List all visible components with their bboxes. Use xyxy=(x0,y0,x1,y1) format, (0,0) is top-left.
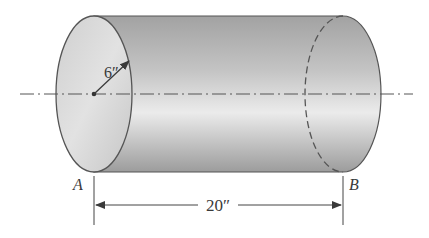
cylinder-diagram: 6″ A B 20″ xyxy=(0,0,429,238)
label-b: B xyxy=(349,176,359,193)
length-label: 20″ xyxy=(206,196,230,215)
radius-label: 6″ xyxy=(104,64,119,81)
label-a: A xyxy=(72,176,83,193)
